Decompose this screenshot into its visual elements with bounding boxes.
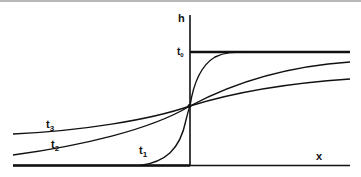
x-axis-label: x: [316, 150, 323, 162]
curve-t3: [13, 79, 350, 134]
h-axis-label: h: [178, 12, 185, 24]
label-t2: t2: [51, 138, 60, 153]
label-t1: t1: [139, 144, 148, 159]
curve-t1: [140, 52, 245, 166]
crossing-point: [188, 104, 192, 108]
label-t3: t3: [46, 118, 55, 133]
label-t0: t0: [177, 46, 184, 58]
diagram-frame: h x t0 t1 t2 t3: [0, 0, 361, 177]
diffusion-diagram: h x t0 t1 t2 t3: [0, 0, 361, 177]
